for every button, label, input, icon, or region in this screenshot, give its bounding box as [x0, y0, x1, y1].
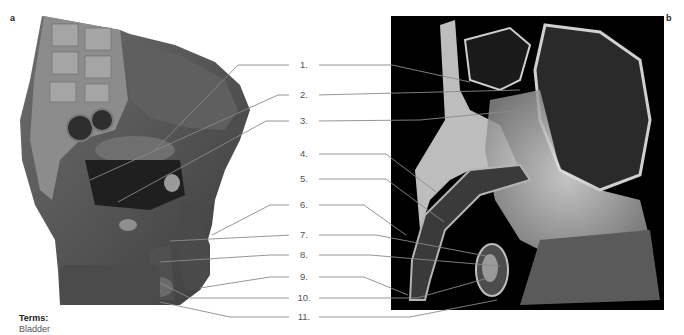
terms-list: Terms: Bladder	[19, 313, 50, 335]
label-11: 11.	[289, 312, 319, 322]
label-8: 8.	[289, 250, 319, 260]
label-9: 9.	[289, 272, 319, 282]
label-2: 2.	[289, 90, 319, 100]
label-5: 5.	[289, 174, 319, 184]
panel-a-illustration	[20, 16, 250, 305]
panel-letter-a: a	[10, 13, 15, 23]
term-item-bladder: Bladder	[19, 324, 50, 335]
panel-letter-b: b	[666, 13, 672, 23]
label-3: 3.	[289, 116, 319, 126]
leader-9-left	[200, 277, 292, 288]
leader-6-left	[212, 205, 292, 235]
panel-b-mri-image	[391, 16, 664, 310]
label-6: 6.	[289, 200, 319, 210]
diagram-canvas	[0, 0, 684, 335]
label-4: 4.	[289, 149, 319, 159]
terms-title: Terms:	[19, 313, 50, 324]
label-7: 7.	[289, 230, 319, 240]
label-10: 10.	[289, 293, 319, 303]
label-1: 1.	[289, 60, 319, 70]
